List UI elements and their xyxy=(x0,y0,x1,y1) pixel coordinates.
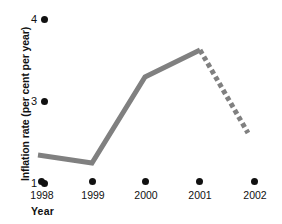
plot-area xyxy=(0,0,282,224)
inflation-rate-line-chart: Inflation rate (per cent per year) 4 3 1… xyxy=(0,0,282,224)
actual-inflation-line xyxy=(38,50,200,163)
projected-inflation-line xyxy=(200,50,248,133)
